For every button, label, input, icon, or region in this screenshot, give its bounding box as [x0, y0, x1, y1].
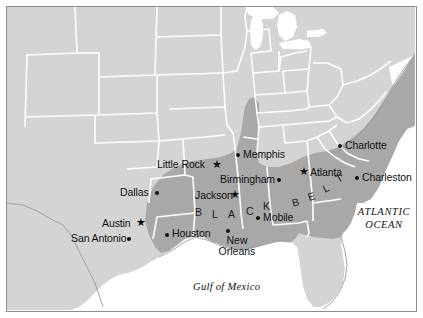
map-frame: B L A C K B E L T ATLANTIC OCEAN Gulf of…	[6, 6, 417, 312]
city-label-houston: Houston	[172, 228, 210, 239]
atlantic-ocean-line1: ATLANTIC	[355, 205, 413, 218]
city-label-atlanta: Atlanta	[310, 167, 342, 178]
black-belt-letter-B: B	[195, 207, 202, 218]
city-label-charlotte: Charlotte	[345, 140, 387, 151]
city-label-san-antonio: San Antonio	[71, 233, 127, 244]
black-belt-letter-A: A	[228, 209, 235, 220]
capital-star-little-rock: ★	[212, 159, 222, 170]
capital-star-jackson: ★	[230, 189, 240, 200]
capital-star-atlanta: ★	[299, 166, 309, 177]
atlantic-ocean-label: ATLANTIC OCEAN	[355, 205, 413, 231]
city-label-jackson: Jackson	[195, 190, 233, 201]
city-label-mobile: Mobile	[263, 212, 293, 223]
map-figure: B L A C K B E L T ATLANTIC OCEAN Gulf of…	[0, 0, 423, 318]
city-label-memphis: Memphis	[243, 149, 285, 160]
atlantic-ocean-line2: OCEAN	[355, 218, 413, 231]
city-label-dallas: Dallas	[120, 187, 149, 198]
city-label-birmingham: Birmingham	[220, 174, 275, 185]
city-label-new-orleans-line2: Orleans	[211, 246, 263, 257]
black-belt-letter-L: L	[212, 209, 218, 220]
map-canvas	[7, 7, 415, 310]
black-belt-letter-K: K	[263, 201, 270, 212]
city-label-new-orleans: New Orleans	[211, 235, 263, 257]
gulf-of-mexico-label: Gulf of Mexico	[193, 282, 260, 293]
city-label-charleston: Charleston	[362, 172, 412, 183]
city-label-austin: Austin	[102, 218, 131, 229]
black-belt-letter-C: C	[246, 206, 254, 217]
capital-star-austin: ★	[136, 217, 146, 228]
city-label-little-rock: Little Rock	[157, 159, 205, 170]
